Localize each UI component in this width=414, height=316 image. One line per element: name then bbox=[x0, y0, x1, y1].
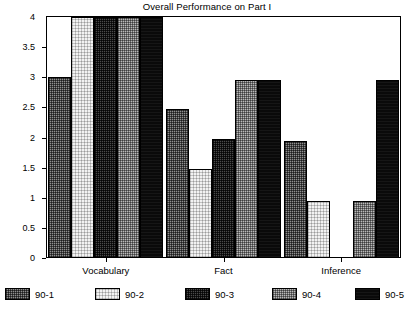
legend-item-90-1[interactable]: 90-1 bbox=[5, 286, 54, 302]
y-tick-mark bbox=[42, 258, 46, 259]
y-tick-label: 1 bbox=[30, 193, 35, 202]
y-axis: 00.511.522.533.54 bbox=[0, 16, 42, 258]
legend-item-90-5[interactable]: 90-5 bbox=[355, 286, 404, 302]
series-2-swatch bbox=[95, 288, 120, 300]
series-5-swatch bbox=[355, 288, 380, 300]
bar-vocabulary-90-5 bbox=[140, 17, 163, 258]
bar-vocabulary-90-4 bbox=[117, 17, 140, 258]
bar-inference-90-1 bbox=[284, 141, 307, 258]
y-tick-label: 1.5 bbox=[22, 163, 35, 172]
legend-label: 90-4 bbox=[302, 289, 321, 300]
legend-item-90-2[interactable]: 90-2 bbox=[95, 286, 144, 302]
bar-fact-90-1 bbox=[166, 109, 189, 258]
bar-inference-90-5 bbox=[376, 80, 399, 258]
chart-legend: 90-190-290-390-490-5 bbox=[0, 286, 414, 308]
y-tick-label: 2.5 bbox=[22, 103, 35, 112]
series-4-swatch bbox=[272, 288, 297, 300]
legend-item-90-3[interactable]: 90-3 bbox=[185, 286, 234, 302]
bar-vocabulary-90-3 bbox=[94, 17, 117, 258]
bar-fact-90-2 bbox=[189, 169, 212, 258]
x-tick-mark bbox=[341, 258, 342, 262]
legend-item-90-4[interactable]: 90-4 bbox=[272, 286, 321, 302]
bar-vocabulary-90-2 bbox=[71, 17, 94, 258]
x-tick-label: Inference bbox=[321, 265, 361, 276]
y-tick-label: 0.5 bbox=[22, 223, 35, 232]
y-tick-label: 3 bbox=[30, 73, 35, 82]
bar-fact-90-4 bbox=[235, 80, 258, 258]
series-3-swatch bbox=[185, 288, 210, 300]
legend-label: 90-1 bbox=[35, 289, 54, 300]
legend-label: 90-5 bbox=[385, 289, 404, 300]
series-1-swatch bbox=[5, 288, 30, 300]
bar-inference-90-4 bbox=[353, 201, 376, 258]
y-tick-label: 3.5 bbox=[22, 43, 35, 52]
y-tick-label: 4 bbox=[30, 13, 35, 22]
plot-area bbox=[47, 17, 400, 258]
bar-fact-90-5 bbox=[258, 80, 281, 258]
bar-fact-90-3 bbox=[212, 139, 235, 258]
chart-figure: Overall Performance on Part I 00.511.522… bbox=[0, 0, 414, 316]
x-tick-mark bbox=[224, 258, 225, 262]
bar-vocabulary-90-1 bbox=[48, 77, 71, 258]
y-tick-label: 0 bbox=[30, 254, 35, 263]
x-tick-label: Vocabulary bbox=[82, 265, 129, 276]
x-tick-label: Fact bbox=[214, 265, 232, 276]
legend-label: 90-2 bbox=[125, 289, 144, 300]
bar-inference-90-2 bbox=[307, 201, 330, 258]
x-tick-mark bbox=[106, 258, 107, 262]
chart-title: Overall Performance on Part I bbox=[0, 1, 414, 13]
legend-label: 90-3 bbox=[215, 289, 234, 300]
x-axis: VocabularyFactInference bbox=[46, 262, 401, 278]
y-tick-label: 2 bbox=[30, 133, 35, 142]
